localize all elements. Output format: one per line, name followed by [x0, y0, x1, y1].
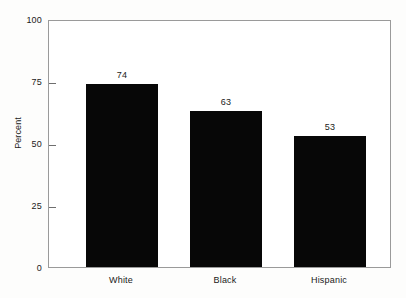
plot-area: 74 63 53	[48, 20, 391, 268]
bar-value-hispanic: 53	[325, 122, 335, 132]
y-tick-mark-75	[49, 83, 56, 84]
y-tick-label-100: 100	[6, 15, 42, 25]
bar-white	[86, 84, 158, 267]
y-tick-mark-50	[49, 145, 56, 146]
bar-hispanic	[294, 136, 366, 267]
bar-chart-figure: Percent 100 75 50 25 0 74 63 53 White Bl…	[0, 0, 406, 298]
y-tick-label-0: 0	[6, 263, 42, 273]
x-label-hispanic: Hispanic	[311, 275, 347, 285]
x-label-black: Black	[213, 275, 236, 285]
bar-black	[190, 111, 262, 267]
y-axis-tick-labels: 100 75 50 25 0	[0, 20, 42, 268]
y-tick-mark-25	[49, 207, 56, 208]
x-axis-category-labels: White Black Hispanic	[48, 275, 391, 291]
y-tick-label-25: 25	[6, 201, 42, 211]
x-label-white: White	[109, 275, 133, 285]
bar-value-white: 74	[117, 70, 127, 80]
bar-value-black: 63	[221, 97, 231, 107]
y-tick-label-50: 50	[6, 139, 42, 149]
y-tick-label-75: 75	[6, 77, 42, 87]
